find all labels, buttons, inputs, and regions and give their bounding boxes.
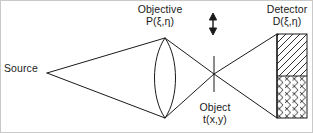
ray-source-to-lens-top xyxy=(47,38,165,73)
illumination-cone-rays xyxy=(47,38,165,118)
object-label: Object t(x,y) xyxy=(186,101,244,125)
objective-label-line2: P(ξ,η) xyxy=(117,15,203,27)
objective-label-line1: Objective xyxy=(117,3,203,15)
lens-right-surface xyxy=(165,38,176,118)
scan-arrow-head-down xyxy=(209,28,216,35)
detector-upper-hatch-region xyxy=(277,34,307,76)
ray-object-to-detector-top xyxy=(214,34,277,74)
ray-lens-top-to-object xyxy=(165,38,214,74)
object-scan-double-arrow xyxy=(209,13,216,35)
source-label-line1: Source xyxy=(4,62,38,74)
detector-label-line2: D(ξ,η) xyxy=(256,15,313,27)
detector-label: Detector D(ξ,η) xyxy=(256,3,313,27)
ray-source-to-lens-bottom xyxy=(47,73,165,118)
detector-label-line1: Detector xyxy=(256,3,313,15)
optical-diagram-figure: Source Objective P(ξ,η) Object t(x,y) De… xyxy=(0,0,313,133)
object-label-line1: Object xyxy=(186,101,244,113)
lens-left-surface xyxy=(155,38,166,118)
source-label: Source xyxy=(4,62,38,74)
object-label-line2: t(x,y) xyxy=(186,113,244,125)
objective-label: Objective P(ξ,η) xyxy=(117,3,203,27)
scan-arrow-head-up xyxy=(209,13,216,20)
detector-lower-crosshatch-region xyxy=(277,76,307,118)
detector-panel xyxy=(277,34,307,118)
objective-lens xyxy=(155,38,176,118)
